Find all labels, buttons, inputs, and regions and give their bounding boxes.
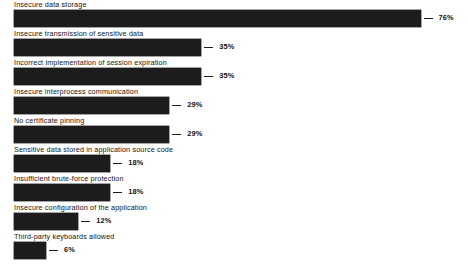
- bar-row: Insecure data storage76%: [0, 0, 468, 29]
- bar-value-label: 29%: [187, 129, 202, 138]
- bar-track: [14, 155, 110, 172]
- bar-chart: Insecure data storage76%Insecure transmi…: [0, 0, 468, 278]
- bar-track: [14, 184, 110, 201]
- bar-row: Sensitive data stored in application sou…: [0, 145, 468, 174]
- bar-track: [14, 39, 201, 56]
- bar-fill: [14, 126, 169, 143]
- bar-fill: [14, 97, 169, 114]
- bar-track: [14, 10, 421, 27]
- bar-category-label: Insecure configuration of the applicatio…: [14, 203, 147, 212]
- bar-leader-line: [424, 18, 433, 19]
- bar-leader-line: [172, 105, 181, 106]
- bar-fill: [14, 242, 46, 259]
- bar-fill: [14, 213, 78, 230]
- bar-leader-line: [81, 221, 90, 222]
- bar-category-label: Insecure transmission of sensitive data: [14, 29, 143, 38]
- bar-fill: [14, 68, 201, 85]
- bar-leader-line: [204, 47, 213, 48]
- bar-value-label: 35%: [219, 71, 234, 80]
- bar-row: Insufficient brute-force protection18%: [0, 174, 468, 203]
- bar-leader-line: [204, 76, 213, 77]
- bar-track: [14, 97, 169, 114]
- bar-category-label: Sensitive data stored in application sou…: [14, 145, 173, 154]
- bar-category-label: No certificate pinning: [14, 116, 84, 125]
- bar-value-label: 12%: [96, 216, 111, 225]
- bar-leader-line: [113, 192, 122, 193]
- bar-fill: [14, 39, 201, 56]
- bar-value-label: 18%: [128, 158, 143, 167]
- bar-row: No certificate pinning29%: [0, 116, 468, 145]
- bar-category-label: Incorrect implementation of session expi…: [14, 58, 167, 67]
- bar-leader-line: [113, 163, 122, 164]
- bar-category-label: Insecure data storage: [14, 0, 87, 9]
- bar-track: [14, 213, 78, 230]
- bar-leader-line: [172, 134, 181, 135]
- bar-leader-line: [49, 250, 58, 251]
- bar-row: Insecure interprocess communication29%: [0, 87, 468, 116]
- bar-value-label: 76%: [439, 13, 454, 22]
- bar-value-label: 18%: [128, 187, 143, 196]
- bar-fill: [14, 10, 421, 27]
- bar-track: [14, 242, 46, 259]
- bar-value-label: 29%: [187, 100, 202, 109]
- bar-row: Incorrect implementation of session expi…: [0, 58, 468, 87]
- bar-row: Third-party keyboards allowed6%: [0, 232, 468, 261]
- bar-category-label: Third-party keyboards allowed: [14, 232, 114, 241]
- bar-value-label: 6%: [64, 245, 75, 254]
- bar-fill: [14, 155, 110, 172]
- bar-value-label: 35%: [219, 42, 234, 51]
- bar-row: Insecure configuration of the applicatio…: [0, 203, 468, 232]
- bar-fill: [14, 184, 110, 201]
- bar-track: [14, 126, 169, 143]
- bar-category-label: Insecure interprocess communication: [14, 87, 138, 96]
- bar-track: [14, 68, 201, 85]
- bar-row: Insecure transmission of sensitive data3…: [0, 29, 468, 58]
- bar-category-label: Insufficient brute-force protection: [14, 174, 124, 183]
